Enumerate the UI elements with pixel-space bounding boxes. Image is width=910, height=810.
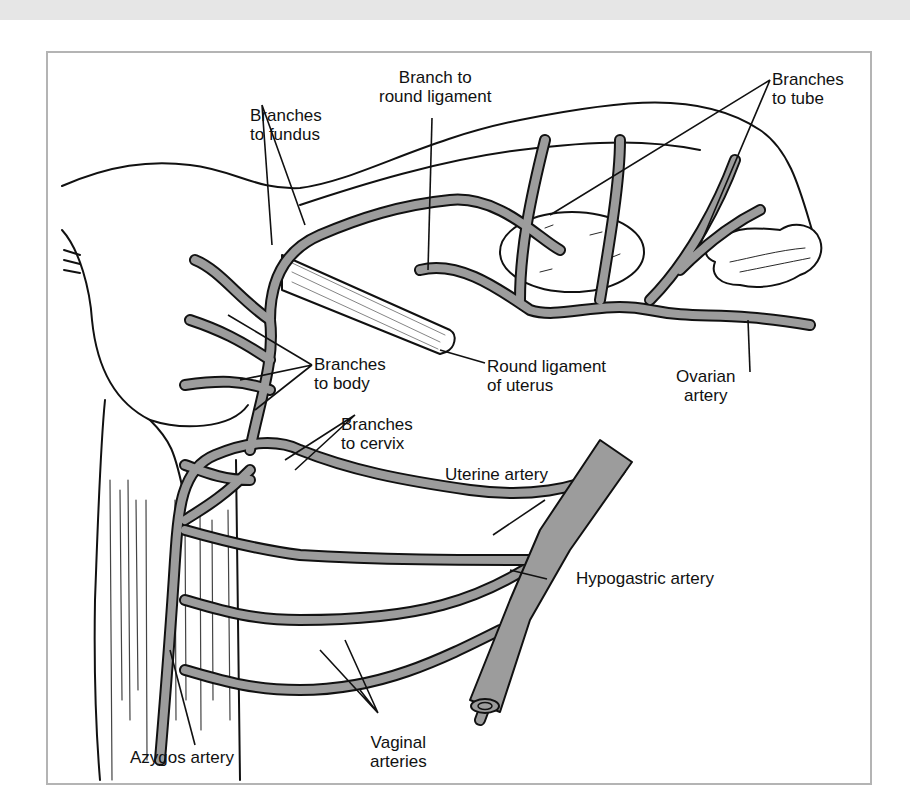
label-line: artery	[676, 386, 736, 405]
arteries	[160, 140, 810, 760]
label-line: to cervix	[341, 434, 413, 453]
label-line: Hypogastric artery	[576, 569, 714, 588]
label-line: Uterine artery	[445, 465, 548, 484]
label-azygos-artery: Azygos artery	[130, 748, 234, 767]
label-line: Branch to	[379, 68, 491, 87]
label-vaginal-arteries: Vaginal arteries	[370, 733, 427, 771]
label-line: to fundus	[250, 125, 322, 144]
label-line: Branches	[772, 70, 844, 89]
uterine-blood-supply-diagram	[0, 0, 910, 810]
label-line: Branches	[314, 355, 386, 374]
label-branches-to-body: Branches to body	[314, 355, 386, 393]
label-line: Branches	[250, 106, 322, 125]
label-branch-to-round-ligament: Branch to round ligament	[379, 68, 491, 106]
label-line: round ligament	[379, 87, 491, 106]
label-line: Round ligament	[487, 357, 606, 376]
label-branches-to-fundus: Branches to fundus	[250, 106, 322, 144]
label-line: Azygos artery	[130, 748, 234, 767]
label-branches-to-cervix: Branches to cervix	[341, 415, 413, 453]
label-ovarian-artery: Ovarian artery	[676, 367, 736, 405]
label-line: arteries	[370, 752, 427, 771]
label-line: Ovarian	[676, 367, 736, 386]
label-round-ligament-of-uterus: Round ligament of uterus	[487, 357, 606, 395]
label-hypogastric-artery: Hypogastric artery	[576, 569, 714, 588]
label-line: to body	[314, 374, 386, 393]
label-branches-to-tube: Branches to tube	[772, 70, 844, 108]
label-line: of uterus	[487, 376, 606, 395]
label-line: Vaginal	[370, 733, 427, 752]
label-line: Branches	[341, 415, 413, 434]
label-uterine-artery: Uterine artery	[445, 465, 548, 484]
label-line: to tube	[772, 89, 844, 108]
